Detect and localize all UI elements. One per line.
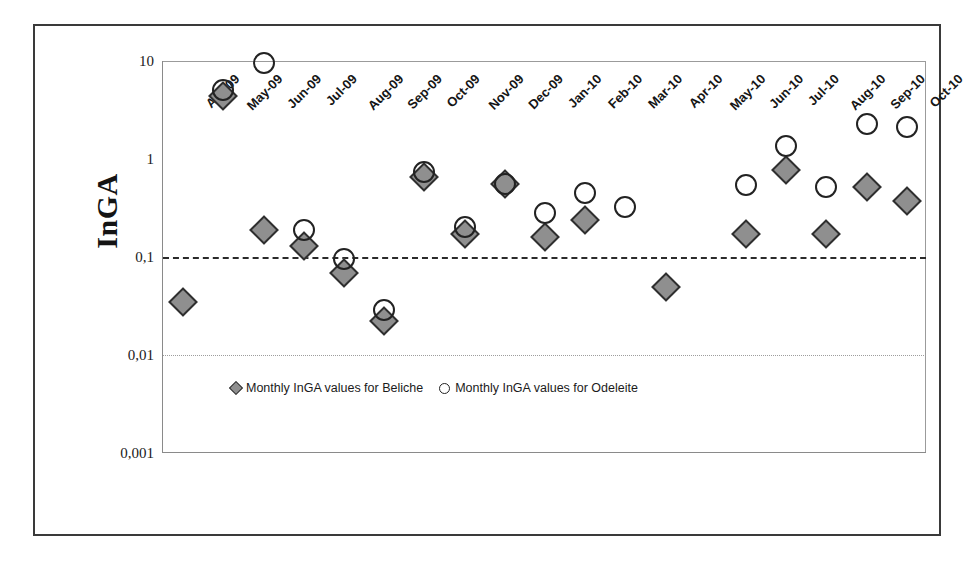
x-tick-label: Feb-10: [609, 67, 649, 107]
filled-diamond-icon: [229, 381, 243, 395]
legend-label-beliche: Monthly InGA values for Beliche: [246, 381, 423, 395]
y-tick-label: 1: [147, 151, 155, 168]
x-tick-label: May-09: [248, 67, 290, 109]
data-point-odeleite: [896, 116, 918, 138]
x-tick-label: Oct-09: [448, 67, 487, 106]
data-point-beliche: [771, 155, 801, 185]
y-tick-label: 0,01: [128, 347, 154, 364]
x-tick-label: Jul-10: [809, 67, 846, 104]
data-point-beliche: [731, 220, 761, 250]
data-point-odeleite: [494, 173, 516, 195]
x-tick-label: Jul-09: [327, 67, 364, 104]
gridline-0,1: [163, 257, 926, 259]
x-tick-label: Jun-09: [288, 67, 328, 107]
x-tick-label: Oct-10: [931, 67, 970, 106]
y-axis-title: InGA: [90, 131, 124, 291]
figure-frame: InGA 1010,10,010,001 Apr-09May-09Jun-09J…: [33, 24, 941, 536]
data-point-odeleite: [856, 113, 878, 135]
x-tick-label: Mar-10: [650, 67, 690, 107]
data-point-beliche: [892, 186, 922, 216]
data-point-odeleite: [253, 52, 275, 74]
open-circle-icon: [439, 383, 450, 394]
x-tick-label: Jan-10: [569, 67, 609, 107]
data-point-odeleite: [373, 299, 395, 321]
data-point-odeleite: [413, 161, 435, 183]
data-point-odeleite: [775, 135, 797, 157]
chart-legend: Monthly InGA values for Beliche Monthly …: [231, 381, 638, 395]
data-point-beliche: [651, 273, 681, 303]
x-tick-label: May-10: [731, 67, 773, 109]
x-tick-label: Apr-10: [690, 67, 730, 107]
data-point-odeleite: [815, 176, 837, 198]
legend-label-odeleite: Monthly InGA values for Odeleite: [455, 381, 638, 395]
data-point-odeleite: [614, 196, 636, 218]
gridline-0,01: [163, 355, 926, 356]
data-point-odeleite: [454, 216, 476, 238]
y-tick-label: 0,001: [120, 445, 154, 462]
x-tick-label: Jun-10: [770, 67, 810, 107]
data-point-odeleite: [534, 202, 556, 224]
data-point-odeleite: [333, 248, 355, 270]
x-tick-label: Aug-10: [851, 67, 893, 109]
data-point-beliche: [530, 222, 560, 252]
x-tick-label: Dec-09: [529, 67, 570, 108]
y-tick-label: 0,1: [135, 249, 154, 266]
x-tick-label: Sep-09: [409, 67, 450, 108]
x-tick-label: Aug-09: [369, 67, 411, 109]
data-point-beliche: [168, 287, 198, 317]
plot-top-border: [163, 61, 926, 62]
legend-item-beliche: Monthly InGA values for Beliche: [231, 381, 423, 395]
data-point-beliche: [570, 205, 600, 235]
y-tick-label: 10: [139, 53, 154, 70]
data-point-odeleite: [574, 182, 596, 204]
data-point-beliche: [249, 215, 279, 245]
data-point-odeleite: [212, 79, 234, 101]
data-point-odeleite: [293, 219, 315, 241]
data-point-beliche: [812, 220, 842, 250]
x-tick-label: Nov-09: [489, 67, 530, 108]
data-point-odeleite: [735, 174, 757, 196]
data-point-beliche: [852, 172, 882, 202]
legend-item-odeleite: Monthly InGA values for Odeleite: [439, 381, 638, 395]
